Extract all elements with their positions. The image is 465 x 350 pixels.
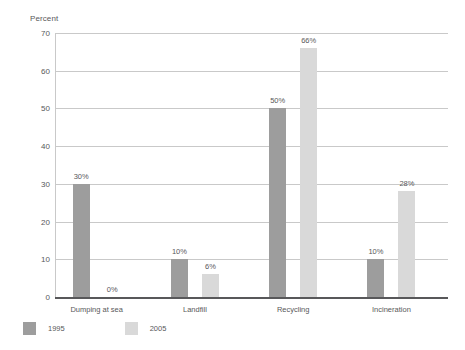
y-tick-label-30: 30	[41, 179, 50, 188]
bar-group-incineration: 10% 28% Incineration	[367, 33, 465, 297]
bar-value-label: 50%	[270, 96, 285, 105]
bar-chart: Percent 70 60 50 40 30 20 10 0	[0, 0, 465, 350]
bar-value-label: 28%	[399, 179, 414, 188]
bar-fill	[171, 259, 188, 297]
bar-value-label: 10%	[172, 247, 187, 256]
legend-label-2005: 2005	[150, 324, 167, 333]
bar-fill	[367, 259, 384, 297]
y-tick-label-40: 40	[41, 142, 50, 151]
bar-2005-incineration[interactable]: 28%	[398, 191, 415, 297]
bar-fill	[269, 108, 286, 297]
legend-label-1995: 1995	[48, 324, 65, 333]
legend-swatch-2005	[125, 322, 138, 335]
bar-1995-dumping-at-sea[interactable]: 30%	[73, 184, 90, 297]
bar-1995-recycling[interactable]: 50%	[269, 108, 286, 297]
x-axis-category-label: Recycling	[277, 305, 310, 314]
y-axis-title: Percent	[30, 14, 58, 23]
bar-value-label: 66%	[301, 36, 316, 45]
y-tick-label-50: 50	[41, 104, 50, 113]
bar-group-recycling: 50% 66% Recycling	[269, 33, 367, 297]
bar-2005-landfill[interactable]: 6%	[202, 274, 219, 297]
chart-legend: 1995 2005	[23, 322, 166, 335]
bar-value-label: 10%	[368, 247, 383, 256]
y-tick-label-0: 0	[46, 293, 50, 302]
bar-value-label: 6%	[205, 262, 216, 271]
legend-swatch-1995	[23, 322, 36, 335]
plot-area: 70 60 50 40 30 20 10 0 30%	[55, 33, 448, 297]
gridline-0: 0	[55, 297, 448, 299]
y-axis-line	[55, 33, 56, 297]
x-axis-category-label: Dumping at sea	[70, 305, 123, 314]
bar-group-dumping-at-sea: 30% 0% Dumping at sea	[73, 33, 171, 297]
y-tick-label-20: 20	[41, 217, 50, 226]
y-tick-label-60: 60	[41, 66, 50, 75]
bar-1995-incineration[interactable]: 10%	[367, 259, 384, 297]
bar-fill	[300, 48, 317, 297]
y-tick-label-10: 10	[41, 255, 50, 264]
x-axis-category-label: Incineration	[372, 305, 411, 314]
legend-item-2005[interactable]: 2005	[125, 322, 167, 335]
y-tick-label-70: 70	[41, 29, 50, 38]
legend-item-1995[interactable]: 1995	[23, 322, 65, 335]
x-axis-category-label: Landfill	[183, 305, 207, 314]
bar-fill	[398, 191, 415, 297]
bar-1995-landfill[interactable]: 10%	[171, 259, 188, 297]
bar-fill	[202, 274, 219, 297]
bar-fill	[73, 184, 90, 297]
bar-value-label: 30%	[74, 172, 89, 181]
bar-group-landfill: 10% 6% Landfill	[171, 33, 269, 297]
bar-2005-recycling[interactable]: 66%	[300, 48, 317, 297]
bar-value-label: 0%	[107, 285, 118, 294]
